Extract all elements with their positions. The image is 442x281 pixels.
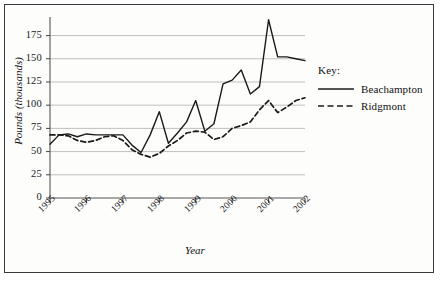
legend-label-ridgmont: Ridgmont xyxy=(361,100,406,112)
y-tick-label: 150 xyxy=(16,52,42,63)
chart-canvas xyxy=(0,0,442,281)
legend-item-ridgmont: Ridgmont xyxy=(318,98,438,113)
y-tick-label: 0 xyxy=(16,191,42,202)
legend-title: Key: xyxy=(318,64,438,76)
chart-legend: Key: Beachampton Ridgmont xyxy=(318,64,438,115)
y-tick-label: 75 xyxy=(16,121,42,132)
y-tick-label: 125 xyxy=(16,75,42,86)
y-tick-label: 175 xyxy=(16,29,42,40)
legend-swatch-solid-icon xyxy=(318,84,354,94)
axis-lines xyxy=(50,17,305,198)
legend-swatch-dashed-icon xyxy=(318,101,354,111)
axis-ticks xyxy=(46,36,305,203)
gridlines xyxy=(50,36,305,175)
x-axis-title: Year xyxy=(150,244,240,256)
legend-item-beachampton: Beachampton xyxy=(318,81,438,96)
y-tick-label: 50 xyxy=(16,145,42,156)
y-tick-label: 25 xyxy=(16,168,42,179)
y-tick-label: 100 xyxy=(16,98,42,109)
legend-label-beachampton: Beachampton xyxy=(361,83,423,95)
data-series-group xyxy=(50,20,305,157)
